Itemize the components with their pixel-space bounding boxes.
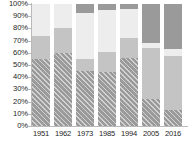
bar-segment-2005-segment-4-dark[interactable] (142, 4, 160, 43)
x-axis-tick-label: 1985 (95, 128, 119, 139)
bar-segment-1962-segment-3-light[interactable] (54, 4, 72, 28)
y-axis-labels: 100% 90% 80% 70% 60% 50% 40% 30% 20% 10%… (0, 0, 29, 130)
bar-1962[interactable] (54, 4, 72, 126)
y-axis-tick (28, 4, 31, 5)
bar-segment-1973-segment-2-medium[interactable] (76, 59, 94, 71)
bar-segment-1951-segment-1-hatched[interactable] (32, 59, 50, 126)
x-axis-tick-label: 1962 (51, 128, 75, 139)
bar-segment-1973-segment-4-dark[interactable] (76, 4, 94, 13)
y-axis-tick-label: 60% (13, 49, 28, 57)
y-axis-tick-label: 10% (13, 110, 28, 118)
bar-segment-1985-segment-1-hatched[interactable] (98, 72, 116, 126)
bar-segment-1973-segment-3-light[interactable] (76, 13, 94, 59)
y-axis-tick-label: 20% (13, 98, 28, 106)
y-axis-tick (28, 41, 31, 42)
y-axis-tick-label: 0% (17, 122, 28, 130)
y-axis-tick-label: 30% (13, 85, 28, 93)
bar-segment-2016-segment-1-hatched[interactable] (164, 110, 182, 126)
bar-segment-2005-segment-2-medium[interactable] (142, 48, 160, 99)
bar-segment-1951-segment-2-medium[interactable] (32, 36, 50, 59)
bar-1985[interactable] (98, 4, 116, 126)
stacked-bar-chart: 100% 90% 80% 70% 60% 50% 40% 30% 20% 10%… (0, 0, 193, 152)
y-axis-tick-label: 100% (9, 0, 28, 8)
bar-segment-1994-segment-1-hatched[interactable] (120, 58, 138, 126)
bar-segment-1985-segment-2-medium[interactable] (98, 52, 116, 73)
x-axis-labels: 1951 1962 1973 1985 1994 2005 2016 (32, 128, 188, 142)
y-axis-tick (28, 16, 31, 17)
bar-segment-2005-segment-1-hatched[interactable] (142, 99, 160, 126)
bar-segment-2016-segment-2-medium[interactable] (164, 56, 182, 110)
bar-1994[interactable] (120, 4, 138, 126)
y-axis-tick (28, 77, 31, 78)
bar-segment-1973-segment-1-hatched[interactable] (76, 71, 94, 126)
x-axis-tick-label: 2016 (161, 128, 185, 139)
bar-segment-2016-segment-4-dark[interactable] (164, 4, 182, 49)
bar-segment-1951-segment-3-light[interactable] (32, 4, 50, 36)
x-axis-tick-label: 1994 (117, 128, 141, 139)
y-axis-tick (28, 102, 31, 103)
bar-2005[interactable] (142, 4, 160, 126)
plot-area (32, 4, 188, 126)
bar-segment-1962-segment-2-medium[interactable] (54, 28, 72, 52)
x-axis-tick-label: 1951 (29, 128, 53, 139)
bar-segment-1985-segment-4-dark[interactable] (98, 4, 116, 10)
y-axis-tick (28, 28, 31, 29)
y-axis-tick-label: 90% (13, 12, 28, 20)
y-axis-tick (28, 53, 31, 54)
bar-segment-1985-segment-3-light[interactable] (98, 10, 116, 51)
bar-segment-1962-segment-1-hatched[interactable] (54, 53, 72, 126)
bar-2016[interactable] (164, 4, 182, 126)
bar-1951[interactable] (32, 4, 50, 126)
y-axis-tick-label: 50% (13, 61, 28, 69)
bar-1973[interactable] (76, 4, 94, 126)
y-axis-tick-label: 80% (13, 24, 28, 32)
bar-segment-1994-segment-4-dark[interactable] (120, 4, 138, 9)
bar-segment-1994-segment-3-light[interactable] (120, 9, 138, 38)
y-axis-tick-label: 40% (13, 73, 28, 81)
y-axis-tick (28, 126, 31, 127)
y-axis-tick (28, 114, 31, 115)
bar-segment-2016-segment-3-light[interactable] (164, 49, 182, 56)
y-axis-tick (28, 65, 31, 66)
y-axis-tick (28, 89, 31, 90)
bar-segment-1994-segment-2-medium[interactable] (120, 38, 138, 58)
x-axis-line (31, 126, 188, 127)
x-axis-tick-label: 2005 (139, 128, 163, 139)
y-axis-tick-label: 70% (13, 37, 28, 45)
bar-segment-2005-segment-3-light[interactable] (142, 43, 160, 48)
x-axis-tick-label: 1973 (73, 128, 97, 139)
